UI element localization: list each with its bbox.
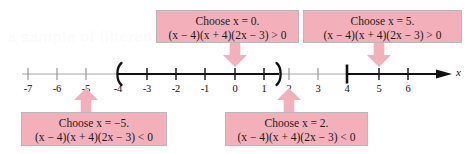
callout-line-2: (x − 4)(x + 4)(2x − 3) > 0 <box>157 28 298 42</box>
figure-canvas: a sample of filtered <box>0 0 468 154</box>
callout-line-1: Choose x = 5. <box>304 14 461 28</box>
tick-label: 1 <box>252 83 276 94</box>
tick-label: -2 <box>164 83 188 94</box>
tick-label: 5 <box>367 83 391 94</box>
callout-choose-x-neg5[interactable]: Choose x = −5. (x − 4)(x + 4)(2x − 3) < … <box>21 112 167 146</box>
callout-choose-x-0[interactable]: Choose x = 0. (x − 4)(x + 4)(2x − 3) > 0 <box>156 10 299 43</box>
tick-label: 4 <box>335 83 359 94</box>
tick-label: -3 <box>135 83 159 94</box>
axis-label-x: x <box>456 66 461 78</box>
tick-label: -1 <box>193 83 217 94</box>
tick-label: 6 <box>396 83 420 94</box>
callout-choose-x-5[interactable]: Choose x = 5. (x − 4)(x + 4)(2x − 3) > 0 <box>303 10 462 43</box>
tick-label: -4 <box>106 83 130 94</box>
tick-label: 3 <box>306 83 330 94</box>
tick-label: -7 <box>16 83 40 94</box>
tick-label: 0 <box>223 83 247 94</box>
tick-label: -6 <box>45 83 69 94</box>
callout-line-1: Choose x = 2. <box>226 116 367 130</box>
callout-line-1: Choose x = 0. <box>157 14 298 28</box>
callout-line-2: (x − 4)(x + 4)(2x − 3) < 0 <box>226 130 367 144</box>
callout-line-2: (x − 4)(x + 4)(2x − 3) > 0 <box>304 28 461 42</box>
callout-line-1: Choose x = −5. <box>22 116 166 130</box>
callout-line-2: (x − 4)(x + 4)(2x − 3) < 0 <box>22 130 166 144</box>
callout-choose-x-2[interactable]: Choose x = 2. (x − 4)(x + 4)(2x − 3) < 0 <box>225 112 368 146</box>
